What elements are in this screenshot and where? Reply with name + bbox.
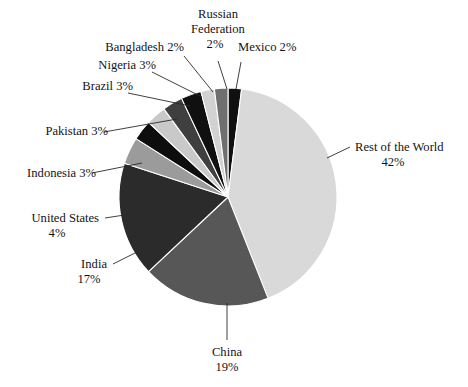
label-united-states-line2: 4% — [49, 226, 66, 240]
pie-slices-group: Mexico 2%Rest of the World 42%China 19%I… — [119, 88, 337, 306]
leader-line-russian-federation — [218, 61, 227, 89]
leader-line-rest-of-world — [327, 147, 350, 158]
pie-chart-figure: Mexico 2%Rest of the World 42%China 19%I… — [0, 0, 468, 387]
label-russian-federation-line1: Russian — [198, 7, 239, 21]
label-mexico: Mexico 2% — [238, 40, 297, 54]
label-russian-federation-line2: Federation — [191, 22, 246, 36]
label-united-states-line1: United States — [31, 211, 99, 225]
label-rest-of-world-line2: 42% — [381, 155, 405, 169]
label-pakistan: Pakistan 3% — [45, 124, 108, 138]
label-bangladesh: Bangladesh 2% — [105, 40, 184, 54]
leader-line-bangladesh — [184, 56, 213, 92]
label-india-line1: India — [81, 257, 107, 271]
label-brazil: Brazil 3% — [82, 79, 133, 93]
chart-canvas: Mexico 2%Rest of the World 42%China 19%I… — [0, 0, 468, 387]
label-indonesia: Indonesia 3% — [27, 166, 96, 180]
label-india-line2: 17% — [77, 272, 101, 286]
label-china-line2: 19% — [215, 360, 239, 374]
leader-line-nigeria — [152, 72, 202, 97]
label-nigeria: Nigeria 3% — [98, 58, 156, 72]
label-russian-federation-line3: 2% — [207, 37, 224, 51]
leader-line-mexico — [236, 62, 241, 89]
label-rest-of-world-line1: Rest of the World — [355, 140, 444, 154]
label-china-line1: China — [212, 345, 242, 359]
